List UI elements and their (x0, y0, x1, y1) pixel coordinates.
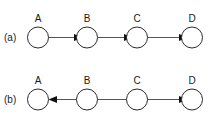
row-b-node-labels: A B C D (35, 75, 196, 86)
node-label-a-A: A (35, 13, 42, 24)
row-b-edges (49, 96, 188, 103)
row-a-node-labels: A B C D (35, 13, 196, 24)
node-a-C[interactable] (127, 27, 148, 48)
node-b-B[interactable] (77, 89, 98, 110)
node-a-D[interactable] (182, 27, 203, 48)
row-label-b: (b) (4, 94, 16, 105)
row-label-a: (a) (4, 32, 16, 43)
row-a-edges (49, 34, 188, 41)
arrowhead-b-B-to-A (49, 96, 58, 103)
graph-figure: (a) A B C D (0, 0, 218, 124)
node-label-b-A: A (35, 75, 42, 86)
node-label-b-C: C (133, 75, 140, 86)
node-label-a-D: D (188, 13, 195, 24)
node-b-D[interactable] (182, 89, 203, 110)
node-label-a-C: C (133, 13, 140, 24)
row-b: (b) A B C D (4, 75, 203, 110)
node-b-C[interactable] (127, 89, 148, 110)
diagram-canvas: (a) A B C D (0, 0, 218, 124)
node-label-a-B: B (84, 13, 91, 24)
node-label-b-D: D (188, 75, 195, 86)
node-a-B[interactable] (77, 27, 98, 48)
node-label-b-B: B (84, 75, 91, 86)
node-a-A[interactable] (28, 27, 49, 48)
row-a: (a) A B C D (4, 13, 203, 48)
node-b-A[interactable] (28, 89, 49, 110)
